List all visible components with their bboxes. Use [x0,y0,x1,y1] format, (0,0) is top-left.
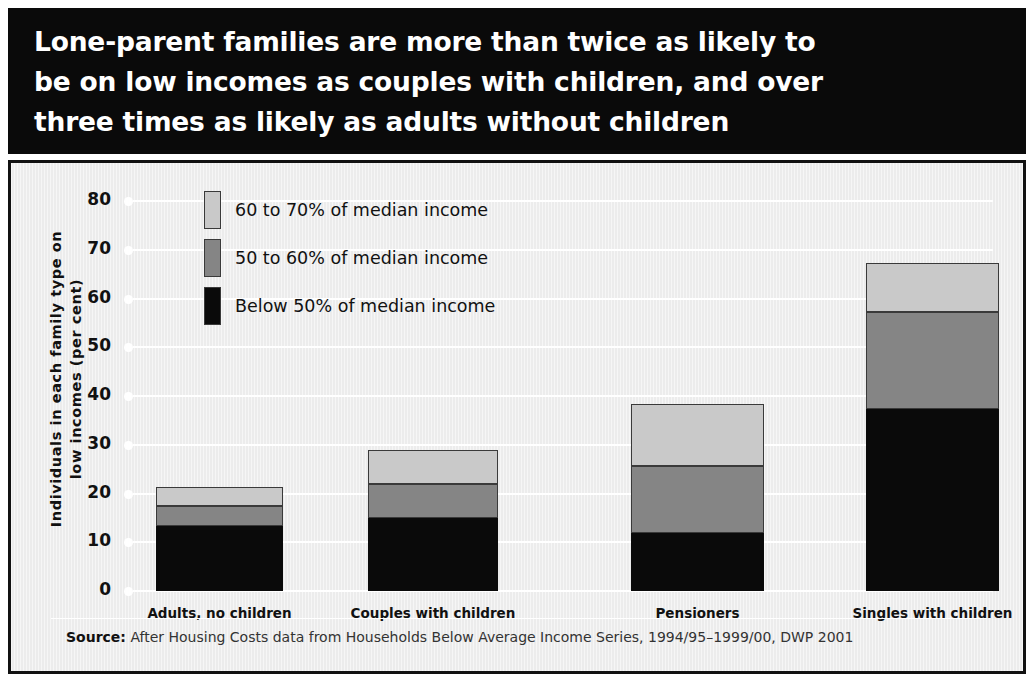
title-banner: Lone-parent families are more than twice… [8,8,1026,154]
source-divider [51,618,987,619]
gridline [133,395,993,397]
y-axis-tick-label: 50 [57,335,111,355]
bar-segment [631,533,764,592]
y-axis-tick-label: 60 [57,287,111,307]
bar-segment [631,404,764,465]
legend-label: Below 50% of median income [235,296,495,316]
y-axis-tick [124,538,133,547]
gridline [133,444,993,446]
figure-root: Lone-parent families are more than twice… [0,0,1034,682]
y-axis-tick [124,246,133,255]
bar-segment [631,466,764,533]
page-title: Lone-parent families are more than twice… [34,22,1000,142]
legend-swatch [204,239,221,277]
bar-segment [866,312,999,409]
y-axis-tick-label: 80 [57,189,111,209]
y-axis-tick-label: 40 [57,384,111,404]
bar-segment [866,263,999,312]
bar-segment [368,484,498,518]
y-axis-tick [124,343,133,352]
bar-stack [866,263,999,591]
y-axis-tick [124,587,133,596]
y-axis-tick [124,392,133,401]
bar-segment [866,409,999,591]
legend-item: Below 50% of median income [204,287,495,325]
bar-stack [368,450,498,591]
y-axis-tick-label: 0 [57,579,111,599]
y-axis-tick [124,490,133,499]
y-axis-tick-label: 10 [57,530,111,550]
legend-swatch [204,191,221,229]
legend-label: 60 to 70% of median income [235,200,488,220]
source-body: After Housing Costs data from Households… [126,629,853,645]
bar-segment [368,450,498,484]
source-note: Source: After Housing Costs data from Ho… [66,629,853,645]
gridline [133,346,993,348]
legend-label: 50 to 60% of median income [235,248,488,268]
y-axis-tick-label: 70 [57,238,111,258]
bar-segment [156,506,283,526]
y-axis-tick [124,295,133,304]
y-axis-tick-label: 30 [57,433,111,453]
bar-segment [156,487,283,506]
legend-item: 50 to 60% of median income [204,239,488,277]
chart-frame: Individuals in each family type on low i… [8,160,1026,674]
legend-item: 60 to 70% of median income [204,191,488,229]
legend-swatch [204,287,221,325]
bar-segment [156,526,283,591]
source-label: Source: [66,629,126,645]
y-axis-tick [124,197,133,206]
bar-stack [631,404,764,591]
y-axis-tick [124,441,133,450]
y-axis-tick-label: 20 [57,482,111,502]
bar-segment [368,518,498,591]
bar-stack [156,487,283,591]
